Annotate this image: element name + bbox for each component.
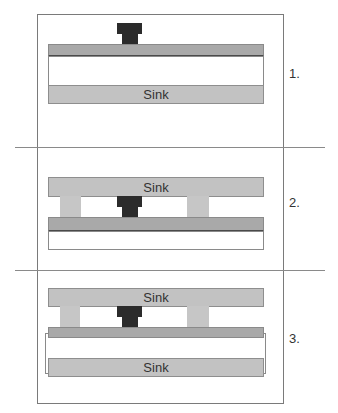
pillar-right xyxy=(187,196,209,218)
pillar-left xyxy=(60,196,81,218)
step-label-3: 3. xyxy=(289,331,313,347)
chip-stem xyxy=(122,317,138,327)
step-label-1: 1. xyxy=(289,66,313,82)
step-divider-2 xyxy=(15,270,325,271)
sink-label: Sink xyxy=(143,360,168,375)
sink-top: Sink xyxy=(48,177,264,197)
substrate xyxy=(48,231,264,250)
sink-top: Sink xyxy=(48,288,264,307)
chip-icon xyxy=(117,196,142,207)
step-divider-1 xyxy=(15,147,325,148)
grey-layer xyxy=(48,217,264,232)
chip-stem xyxy=(122,34,138,44)
pillar-left xyxy=(60,306,80,328)
chip-stem xyxy=(122,207,138,217)
chip-icon xyxy=(117,306,142,317)
grey-layer xyxy=(48,327,264,338)
sink-label: Sink xyxy=(143,180,168,195)
step-label-2: 2. xyxy=(289,195,313,211)
substrate xyxy=(48,56,264,86)
sink-label: Sink xyxy=(143,290,168,305)
sink-label: Sink xyxy=(143,87,168,102)
pillar-right xyxy=(187,306,209,328)
sink-bottom: Sink xyxy=(48,358,264,377)
chip-icon xyxy=(117,23,142,34)
sink-bottom: Sink xyxy=(48,85,264,104)
